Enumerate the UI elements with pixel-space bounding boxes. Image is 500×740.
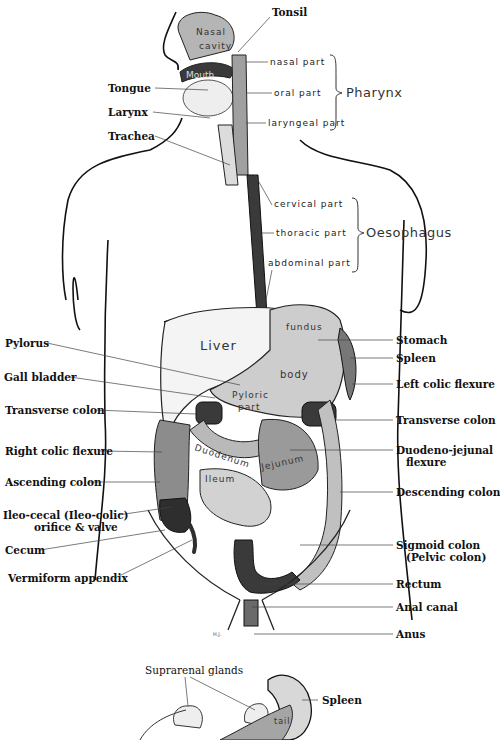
- label-duodeno-jejunal: Duodeno-jejunal: [396, 444, 493, 456]
- label-oesophagus: Oesophagus: [366, 225, 452, 240]
- label-ileo-cecal-2: orifice & valve: [34, 521, 118, 533]
- artist-mark: H.J.: [213, 631, 222, 637]
- liver-label: Liver: [200, 338, 237, 353]
- label-pharynx-laryngeal: laryngeal part: [268, 118, 345, 129]
- label-larynx: Larynx: [108, 106, 148, 118]
- label-anus: Anus: [396, 628, 425, 640]
- tail-label: tail: [274, 717, 290, 726]
- label-rectum: Rectum: [396, 578, 441, 590]
- mouth-label: Mouth: [186, 70, 214, 80]
- label-sigmoid-colon: Sigmoid colon: [396, 539, 480, 551]
- label-descending-colon: Descending colon: [396, 486, 500, 498]
- rectum: [234, 540, 300, 593]
- label-oesophagus-abdominal: abdominal part: [268, 258, 351, 269]
- label-tongue: Tongue: [108, 82, 151, 94]
- label-vermiform-appendix: Vermiform appendix: [8, 572, 128, 584]
- label-oesophagus-cervical: cervical part: [274, 199, 343, 210]
- oesophagus-brace: [352, 198, 364, 272]
- label-pylorus: Pylorus: [5, 337, 49, 349]
- label-transverse-colon-left: Transverse colon: [5, 404, 105, 416]
- jejunum: [258, 419, 318, 490]
- fundus-label: fundus: [286, 322, 323, 332]
- anal-canal: [244, 600, 258, 626]
- label-pharynx: Pharynx: [346, 85, 403, 100]
- cecum: [160, 498, 191, 532]
- nasal-cavity-label: Nasal: [196, 27, 226, 37]
- label-duodeno-jejunal-2: flexure: [406, 456, 446, 468]
- label-ileo-cecal: Ileo-cecal (Ileo-colic): [3, 509, 129, 521]
- label-tonsil: Tonsil: [272, 6, 307, 18]
- label-pharynx-nasal: nasal part: [270, 57, 325, 68]
- pyloric-label-2: part: [238, 402, 260, 412]
- oesophagus: [247, 175, 268, 330]
- label-spleen-lower: Spleen: [322, 694, 362, 706]
- tongue: [183, 80, 233, 116]
- suprarenal-gland-left: [173, 706, 202, 728]
- ileum-label: Ileum: [205, 474, 235, 484]
- label-transverse-colon-right: Transverse colon: [396, 414, 496, 426]
- label-pelvic-colon: (Pelvic colon): [406, 551, 486, 563]
- pyloric-label: Pyloric: [232, 390, 269, 400]
- label-anal-canal: Anal canal: [396, 601, 458, 613]
- nasal-cavity-label-2: cavity: [199, 41, 232, 51]
- label-oesophagus-thoracic: thoracic part: [276, 228, 347, 239]
- body-label: body: [280, 369, 309, 380]
- label-pharynx-oral: oral part: [274, 88, 322, 99]
- label-stomach: Stomach: [396, 334, 447, 346]
- vermiform-appendix: [190, 525, 195, 552]
- label-cecum: Cecum: [5, 544, 45, 556]
- label-suprarenal-glands: Suprarenal glands: [145, 664, 243, 676]
- label-spleen: Spleen: [396, 352, 436, 364]
- transverse-colon-right: [196, 402, 222, 424]
- label-left-colic-flexure: Left colic flexure: [396, 378, 495, 390]
- label-trachea: Trachea: [108, 130, 155, 142]
- label-gall-bladder: Gall bladder: [4, 371, 76, 383]
- label-right-colic-flexure: Right colic flexure: [5, 445, 113, 457]
- label-ascending-colon: Ascending colon: [5, 476, 102, 488]
